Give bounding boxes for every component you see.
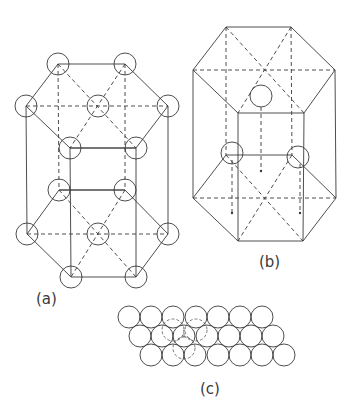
label-panel-a: (a) [36,290,57,308]
panel-b-hex-prism [193,27,336,241]
panel-c-close-packed-layer [118,306,295,366]
label-panel-c: (c) [200,380,220,398]
crystal-structure-diagram [0,0,355,419]
label-panel-b: (b) [259,253,280,271]
panel-a-hcp-cell [15,53,179,288]
